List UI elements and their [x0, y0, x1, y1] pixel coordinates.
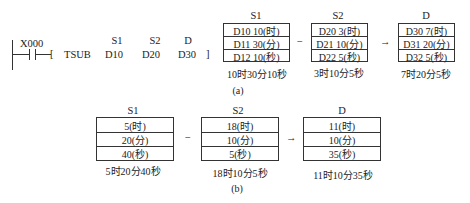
operand-s1: D10 [105, 49, 123, 60]
power-rail [12, 40, 13, 70]
operand-s2: D20 [142, 49, 160, 60]
rung-wire-right [35, 54, 51, 55]
contact-bar-left [29, 49, 30, 60]
s2-register-box: 18(时) 10(分) 5(秒) [201, 117, 279, 161]
operand-label-s1: S1 [110, 35, 124, 46]
register-row: D22 5(秒) [312, 50, 367, 62]
contact-label: X000 [20, 38, 43, 49]
s1-register-box: D10 10(时) D11 30(分) D12 10(秒) [223, 23, 290, 62]
s2-summary: 3时10分5秒 [306, 65, 372, 80]
caption-b: (b) [227, 183, 247, 194]
register-row: 40(秒) [97, 147, 173, 160]
register-row: 11(时) [304, 118, 380, 133]
arrow-icon: → [380, 36, 391, 47]
s1-register-box: 5(时) 20(分) 40(秒) [96, 117, 174, 161]
s2-label: S2 [330, 10, 346, 21]
arrow-icon: → [286, 132, 297, 143]
register-row: 10(分) [304, 133, 380, 147]
s2-label: S2 [230, 105, 246, 116]
s1-label: S1 [125, 105, 141, 116]
operand-label-d: D [181, 35, 195, 46]
s2-register-box: D20 3(时) D21 10(分) D22 5(秒) [311, 23, 368, 62]
register-row: 35(秒) [304, 147, 380, 160]
d-label: D [420, 10, 432, 21]
s1-summary: 5时20分40秒 [96, 163, 170, 178]
instruction-open-bracket: [ [50, 48, 54, 59]
register-row: 5(时) [97, 118, 173, 133]
register-row: 10(分) [202, 133, 278, 147]
register-row: 18(时) [202, 118, 278, 133]
operand-label-s2: S2 [148, 35, 162, 46]
d-label: D [336, 105, 348, 116]
instruction-close-bracket: ] [206, 48, 210, 59]
d-register-box: 11(时) 10(分) 35(秒) [303, 117, 381, 161]
s1-label: S1 [248, 10, 264, 21]
caption-a: (a) [228, 85, 248, 96]
d-register-box: D30 7(时) D31 20(分) D32 5(秒) [398, 23, 455, 62]
s1-summary: 10时30分10秒 [221, 66, 293, 81]
instruction-mnemonic: TSUB [64, 49, 91, 60]
minus-sign: − [185, 132, 191, 143]
register-row: 20(分) [97, 133, 173, 147]
operand-d: D30 [178, 49, 196, 60]
register-row: D32 5(秒) [399, 50, 454, 62]
register-row: 5(秒) [202, 147, 278, 160]
rung-wire-left [12, 54, 29, 55]
minus-sign: − [297, 36, 303, 47]
d-summary: 7时20分5秒 [393, 66, 459, 81]
register-row: D12 10(秒) [224, 50, 289, 62]
d-summary: 11时10分35秒 [302, 167, 384, 182]
s2-summary: 18时10分5秒 [202, 165, 278, 180]
